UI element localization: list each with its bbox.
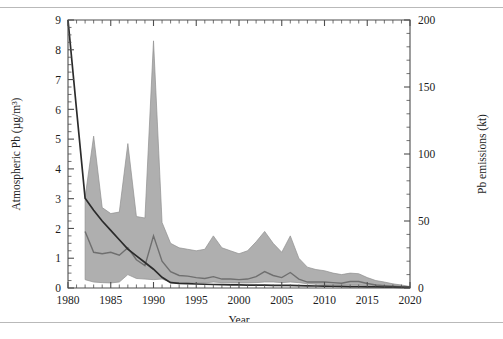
figure-page: 198019851990199520002005201020152020 012…: [0, 0, 503, 339]
y-tick-label: 7: [55, 74, 61, 86]
page-rule-bottom: [0, 322, 503, 323]
y-tick-label: 4: [55, 163, 61, 175]
x-tick-labels: 198019851990199520002005201020152020: [57, 294, 422, 306]
x-axis-title: Year: [228, 314, 249, 322]
x-tick-label: 1995: [185, 294, 208, 306]
x-tick-label: 1980: [57, 294, 80, 306]
x-tick-label: 1985: [99, 294, 122, 306]
y-tick-label: 6: [55, 104, 61, 116]
atmospheric-pb-band-area: [85, 41, 410, 288]
y-tick-label: 5: [55, 133, 61, 145]
y-tick-labels: 0123456789: [55, 14, 61, 294]
y-tick-label: 2: [55, 223, 61, 235]
y-tick-label: 3: [55, 193, 61, 205]
x-tick-label: 1990: [142, 294, 165, 306]
chart-svg: 198019851990199520002005201020152020 012…: [0, 8, 503, 322]
y2-tick-label: 150: [418, 81, 436, 93]
y2-tick-labels: 050100150200: [418, 14, 436, 294]
atmospheric-pb-band: [85, 41, 410, 288]
y-tick-label: 0: [55, 282, 61, 294]
y-tick-label: 9: [55, 14, 61, 26]
y2-tick-label: 100: [418, 148, 436, 160]
y2-tick-label: 0: [418, 282, 424, 294]
x-tick-label: 2005: [270, 294, 293, 306]
y2-tick-label: 50: [418, 215, 430, 227]
y2-axis-title: Pb emissions (kt): [476, 114, 489, 194]
y-axis-title: Atmospheric Pb (µg/m³): [10, 97, 23, 210]
x-tick-label: 2020: [399, 294, 422, 306]
x-tick-label: 2000: [228, 294, 251, 306]
y-axis-title-text: Atmospheric Pb (µg/m³): [10, 97, 23, 210]
y-tick-label: 1: [55, 252, 61, 264]
y-tick-label: 8: [55, 44, 61, 56]
x-tick-label: 2010: [313, 294, 336, 306]
y2-tick-label: 200: [418, 14, 436, 26]
chart-figure: 198019851990199520002005201020152020 012…: [0, 8, 503, 322]
x-tick-label: 2015: [356, 294, 379, 306]
